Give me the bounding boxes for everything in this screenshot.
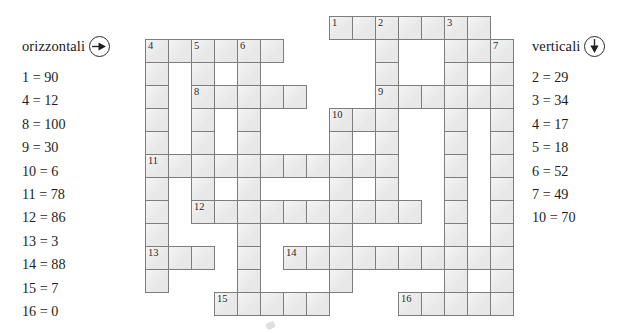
grid-cell[interactable] (398, 246, 422, 270)
grid-cell[interactable] (191, 177, 215, 201)
grid-cell[interactable] (490, 108, 514, 132)
grid-cell[interactable] (260, 39, 284, 63)
grid-cell[interactable] (329, 177, 353, 201)
grid-cell[interactable] (444, 223, 468, 247)
grid-cell[interactable] (306, 200, 330, 224)
grid-cell[interactable] (421, 85, 445, 109)
grid-cell[interactable]: 13 (145, 246, 169, 270)
grid-cell[interactable] (237, 292, 261, 316)
grid-cell[interactable]: 6 (237, 39, 261, 63)
grid-cell[interactable] (145, 131, 169, 155)
grid-cell[interactable] (191, 62, 215, 86)
grid-cell[interactable] (329, 154, 353, 178)
grid-cell[interactable] (375, 39, 399, 63)
grid-cell[interactable] (467, 39, 491, 63)
grid-cell[interactable] (490, 200, 514, 224)
grid-cell[interactable] (444, 131, 468, 155)
grid-cell[interactable] (145, 108, 169, 132)
grid-cell[interactable]: 11 (145, 154, 169, 178)
grid-cell[interactable]: 16 (398, 292, 422, 316)
grid-cell[interactable] (352, 154, 376, 178)
grid-cell[interactable] (467, 292, 491, 316)
grid-cell[interactable] (214, 85, 238, 109)
grid-cell[interactable] (283, 154, 307, 178)
grid-cell[interactable] (467, 16, 491, 40)
grid-cell[interactable] (421, 246, 445, 270)
grid-cell[interactable] (260, 200, 284, 224)
grid-cell[interactable] (283, 292, 307, 316)
grid-cell[interactable] (444, 292, 468, 316)
grid-cell[interactable] (352, 108, 376, 132)
grid-cell[interactable] (375, 62, 399, 86)
grid-cell[interactable] (283, 85, 307, 109)
grid-cell[interactable] (352, 16, 376, 40)
grid-cell[interactable] (237, 108, 261, 132)
grid-cell[interactable] (467, 85, 491, 109)
grid-cell[interactable] (421, 292, 445, 316)
grid-cell[interactable] (260, 154, 284, 178)
grid-cell[interactable]: 14 (283, 246, 307, 270)
grid-cell[interactable] (237, 269, 261, 293)
grid-cell[interactable] (490, 246, 514, 270)
grid-cell[interactable] (421, 16, 445, 40)
grid-cell[interactable] (283, 200, 307, 224)
grid-cell[interactable] (398, 200, 422, 224)
grid-cell[interactable] (444, 246, 468, 270)
grid-cell[interactable] (306, 292, 330, 316)
grid-cell[interactable] (145, 85, 169, 109)
grid-cell[interactable] (352, 246, 376, 270)
grid-cell[interactable] (214, 39, 238, 63)
grid-cell[interactable] (191, 108, 215, 132)
grid-cell[interactable] (168, 154, 192, 178)
grid-cell[interactable] (237, 200, 261, 224)
grid-cell[interactable] (237, 85, 261, 109)
grid-cell[interactable] (375, 108, 399, 132)
grid-cell[interactable] (237, 131, 261, 155)
grid-cell[interactable] (168, 39, 192, 63)
grid-cell[interactable] (490, 131, 514, 155)
grid-cell[interactable]: 7 (490, 39, 514, 63)
grid-cell[interactable] (398, 16, 422, 40)
grid-cell[interactable] (444, 39, 468, 63)
grid-cell[interactable] (214, 200, 238, 224)
grid-cell[interactable]: 1 (329, 16, 353, 40)
grid-cell[interactable] (329, 200, 353, 224)
grid-cell[interactable]: 12 (191, 200, 215, 224)
grid-cell[interactable] (375, 246, 399, 270)
grid-cell[interactable] (329, 131, 353, 155)
grid-cell[interactable] (145, 177, 169, 201)
grid-cell[interactable] (260, 292, 284, 316)
grid-cell[interactable] (490, 292, 514, 316)
grid-cell[interactable] (329, 269, 353, 293)
grid-cell[interactable] (444, 85, 468, 109)
grid-cell[interactable] (490, 177, 514, 201)
grid-cell[interactable] (375, 131, 399, 155)
grid-cell[interactable] (375, 154, 399, 178)
grid-cell[interactable]: 8 (191, 85, 215, 109)
grid-cell[interactable] (237, 177, 261, 201)
grid-cell[interactable] (237, 154, 261, 178)
grid-cell[interactable] (145, 200, 169, 224)
grid-cell[interactable] (329, 223, 353, 247)
grid-cell[interactable] (260, 85, 284, 109)
grid-cell[interactable]: 2 (375, 16, 399, 40)
grid-cell[interactable]: 4 (145, 39, 169, 63)
grid-cell[interactable] (444, 62, 468, 86)
grid-cell[interactable] (490, 154, 514, 178)
grid-cell[interactable]: 5 (191, 39, 215, 63)
grid-cell[interactable] (490, 269, 514, 293)
grid-cell[interactable] (191, 154, 215, 178)
grid-cell[interactable] (306, 246, 330, 270)
grid-cell[interactable] (375, 200, 399, 224)
grid-cell[interactable] (237, 62, 261, 86)
grid-cell[interactable] (444, 108, 468, 132)
grid-cell[interactable] (490, 85, 514, 109)
grid-cell[interactable] (145, 269, 169, 293)
grid-cell[interactable] (214, 154, 238, 178)
grid-cell[interactable] (490, 62, 514, 86)
grid-cell[interactable] (467, 246, 491, 270)
grid-cell[interactable] (145, 62, 169, 86)
grid-cell[interactable] (145, 223, 169, 247)
grid-cell[interactable]: 15 (214, 292, 238, 316)
grid-cell[interactable] (191, 131, 215, 155)
